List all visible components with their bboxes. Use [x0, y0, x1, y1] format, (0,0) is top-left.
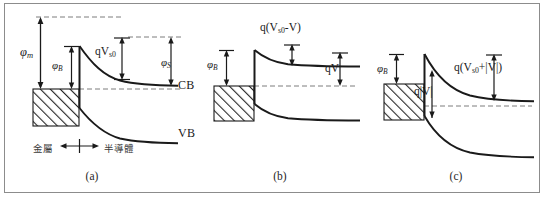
valence-band-curve-a [80, 108, 179, 143]
caption-c: (c) [443, 170, 469, 182]
qvs0-minus-v-label: q(Vs0-V) [260, 22, 301, 35]
phi-s-label: φS [161, 57, 171, 70]
phi-m-label: φm [20, 46, 33, 60]
panel-c: φB q|V| q(Vs0+|V|) (c) [370, 0, 545, 198]
qabsv-label-c: q|V| [414, 86, 433, 98]
qvs0-plus-absv-label: q(Vs0+|V|) [454, 62, 502, 75]
valence-band-curve-b [255, 104, 361, 121]
panel-b: φB q(Vs0-V) qV (b) [192, 0, 370, 198]
caption-b: (b) [267, 170, 293, 182]
metal-hatched-region-a [33, 89, 79, 126]
panel-a-bands [0, 0, 192, 198]
region-label-semiconductor: 半導體 [104, 141, 134, 155]
panel-a: φm φB qVs0 φS CB VB 金屬 半導體 (a) [0, 0, 192, 198]
region-label-metal: 金屬 [33, 141, 53, 155]
figure-container: φm φB qVs0 φS CB VB 金屬 半導體 (a) [0, 0, 545, 198]
phi-b-label-a: φB [52, 60, 63, 73]
panel-c-bands [370, 0, 545, 198]
valence-band-curve-c [425, 116, 535, 157]
phi-b-label-c: φB [377, 63, 388, 76]
metal-hatched-region-b [214, 86, 254, 121]
caption-a: (a) [79, 170, 105, 182]
qv-label-b: qV [325, 63, 339, 75]
phi-b-label-b: φB [207, 59, 218, 72]
qvs0-label-a: qVs0 [95, 46, 116, 59]
